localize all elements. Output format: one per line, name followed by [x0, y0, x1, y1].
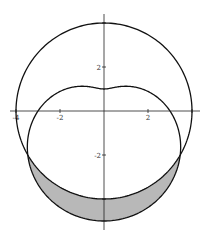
x-tick-label: 2	[146, 114, 150, 122]
polar-plot: -222-2-4	[0, 0, 207, 237]
y-tick-label: 2	[97, 64, 101, 72]
x-tick-label: -2	[57, 114, 64, 122]
y-tick-label: -2	[94, 152, 101, 160]
